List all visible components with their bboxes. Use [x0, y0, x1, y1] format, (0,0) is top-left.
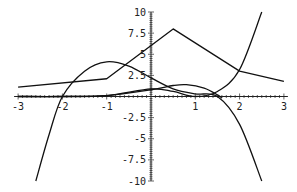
x-tick-label: 1	[192, 101, 198, 112]
x-tick-label: -2	[56, 101, 68, 112]
y-tick-label: 7.5	[128, 28, 146, 39]
y-tick-label: 2.5	[128, 70, 146, 81]
y-tick-label: -2.5	[122, 112, 146, 123]
y-tick-label: 10	[134, 7, 146, 18]
y-tick-label: -10	[128, 176, 146, 187]
plot-area: -3-2-1123107.552.5-2.5-5-7.5-10	[0, 0, 297, 192]
series-hump-cubic	[36, 62, 262, 181]
chart: -3-2-1123107.552.5-2.5-5-7.5-10	[0, 0, 297, 192]
x-tick-label: -3	[12, 101, 24, 112]
y-tick-label: -5	[134, 133, 146, 144]
x-tick-label: -1	[101, 101, 113, 112]
x-tick-label: 3	[281, 101, 287, 112]
y-tick-label: 5	[140, 49, 146, 60]
y-tick-label: -7.5	[122, 154, 146, 165]
x-tick-label: 2	[237, 101, 243, 112]
